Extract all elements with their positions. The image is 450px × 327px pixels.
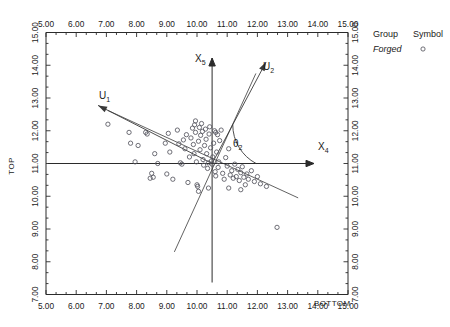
legend-entry-symbol-forged	[421, 47, 425, 51]
data-point	[219, 128, 223, 132]
data-point	[193, 119, 197, 123]
pc-axis-x5-label: X5	[195, 53, 206, 66]
right-tick-label: 10.00	[350, 185, 360, 206]
data-point	[227, 186, 231, 190]
data-point	[227, 147, 231, 151]
bottom-axis-tick-labels: 5.006.007.008.009.0010.0011.0012.0013.00…	[38, 301, 359, 311]
data-point	[175, 128, 179, 132]
data-point	[202, 143, 206, 147]
data-point	[191, 142, 195, 146]
data-point	[205, 152, 209, 156]
left-tick-label: 11.00	[30, 153, 40, 174]
data-point	[221, 171, 225, 175]
left-tick-label: 9.00	[30, 221, 40, 238]
right-tick-label: 8.00	[350, 253, 360, 270]
data-point	[222, 177, 226, 181]
data-point	[163, 141, 167, 145]
data-point	[258, 182, 262, 186]
plot-svg: 5.006.007.008.009.0010.0011.0012.0013.00…	[0, 0, 450, 327]
data-point	[196, 139, 200, 143]
data-point	[275, 225, 279, 229]
top-axis-tick-labels: 5.006.007.008.009.0010.0011.0012.0013.00…	[38, 19, 359, 29]
top-tick-label: 12.00	[247, 19, 268, 29]
data-point	[184, 133, 188, 137]
data-point	[255, 174, 259, 178]
legend-header-group: Group	[373, 29, 398, 39]
right-tick-label: 14.00	[350, 54, 360, 75]
u1-axis	[108, 110, 298, 197]
data-point	[239, 188, 243, 192]
bottom-tick-label: 5.00	[38, 301, 55, 311]
data-point	[204, 137, 208, 141]
bottom-axis-ticks	[46, 290, 348, 295]
right-tick-label: 9.00	[350, 221, 360, 238]
data-point	[200, 129, 204, 133]
right-axis-ticks	[344, 33, 349, 295]
pc-axis-x4-label: X4	[318, 141, 329, 154]
data-point	[136, 143, 140, 147]
right-tick-label: 15.00	[350, 22, 360, 43]
data-point	[213, 170, 217, 174]
x-axis-label: BOTTOM	[314, 299, 350, 308]
data-point	[171, 177, 175, 181]
left-tick-label: 14.00	[30, 54, 40, 75]
bottom-tick-label: 11.00	[217, 301, 238, 311]
top-tick-label: 7.00	[98, 19, 115, 29]
data-point	[252, 179, 256, 183]
data-point	[181, 138, 185, 142]
right-tick-label: 7.00	[350, 286, 360, 303]
data-point	[165, 172, 169, 176]
vector-u1-arrowhead	[98, 105, 107, 112]
left-tick-label: 13.00	[30, 87, 40, 108]
data-point	[127, 130, 131, 134]
data-point	[218, 138, 222, 142]
left-axis-tick-labels: 7.008.009.0010.0011.0012.0013.0014.0015.…	[30, 22, 40, 303]
data-point	[203, 127, 207, 131]
data-point	[206, 186, 210, 190]
data-point	[249, 169, 253, 173]
top-tick-label: 13.00	[277, 19, 298, 29]
left-tick-label: 12.00	[30, 120, 40, 141]
data-point	[214, 174, 218, 178]
left-tick-label: 8.00	[30, 253, 40, 270]
data-point	[205, 166, 209, 170]
bottom-tick-label: 9.00	[159, 301, 176, 311]
top-axis-ticks	[46, 33, 348, 38]
data-point	[198, 148, 202, 152]
data-point	[224, 155, 228, 159]
pc-axes	[48, 58, 314, 283]
right-axis-tick-labels: 7.008.009.0010.0011.0012.0013.0014.0015.…	[350, 22, 360, 303]
data-point	[240, 165, 244, 169]
bottom-tick-label: 8.00	[129, 301, 146, 311]
legend-header-symbol: Symbol	[413, 29, 443, 39]
scatter-plot-figure: 5.006.007.008.009.0010.0011.0012.0013.00…	[0, 0, 450, 327]
data-point	[216, 165, 220, 169]
y-axis-label: TOP	[7, 157, 16, 175]
data-point	[153, 152, 157, 156]
right-tick-label: 13.00	[350, 87, 360, 108]
data-point	[243, 183, 247, 187]
top-tick-label: 6.00	[68, 19, 85, 29]
data-point	[233, 162, 237, 166]
data-point	[264, 184, 268, 188]
bottom-tick-label: 7.00	[98, 301, 115, 311]
annotation-labels: X5 X4 U1 U2 θ2	[99, 53, 329, 154]
pc-axis-x5-arrowhead	[209, 58, 215, 66]
data-point	[187, 155, 191, 159]
left-tick-label: 7.00	[30, 286, 40, 303]
pc-axis-x4-arrowhead	[306, 160, 314, 166]
legend-entry-label-forged: Forged	[373, 44, 403, 54]
angle-theta2-label: θ2	[233, 138, 243, 151]
bottom-tick-label: 13.00	[277, 301, 298, 311]
data-point	[106, 122, 110, 126]
bottom-tick-label: 6.00	[68, 301, 85, 311]
top-tick-label: 14.00	[307, 19, 328, 29]
data-point	[189, 136, 193, 140]
data-point	[207, 132, 211, 136]
data-point	[246, 177, 250, 181]
vector-u1-label: U1	[99, 90, 110, 103]
top-tick-label: 8.00	[129, 19, 146, 29]
right-tick-label: 12.00	[350, 120, 360, 141]
legend: Group Symbol Forged	[373, 29, 443, 54]
data-point	[186, 180, 190, 184]
